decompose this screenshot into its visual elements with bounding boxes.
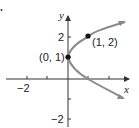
point-label-0-1: (0, 1) [39, 51, 65, 63]
point-1-2 [85, 33, 90, 38]
parabola-curve [68, 22, 125, 98]
point-0-1 [65, 54, 70, 59]
parabola-graph: y x 2 −2 −2 (1, 2) (0, 1) [0, 0, 139, 128]
point-label-1-2: (1, 2) [92, 36, 118, 48]
y-tick-label-neg2: −2 [51, 113, 64, 125]
y-axis-label: y [58, 9, 64, 21]
curve-arrow-top-icon [118, 21, 126, 26]
bullet-mark [1, 9, 3, 11]
x-tick-label-neg2: −2 [17, 82, 30, 94]
x-axis-label: x [123, 83, 129, 95]
y-tick-label-2: 2 [58, 31, 64, 43]
